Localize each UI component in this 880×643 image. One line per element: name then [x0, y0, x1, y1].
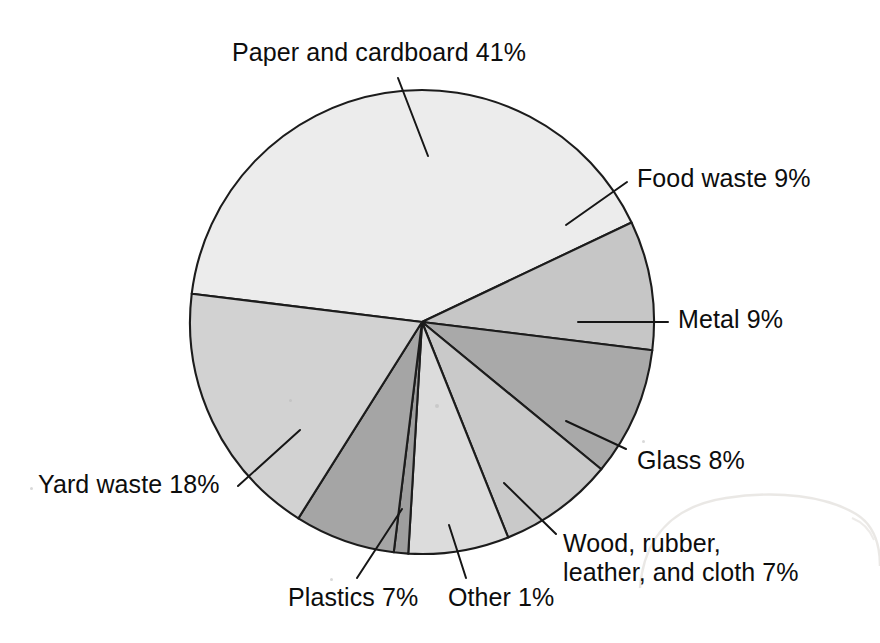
- label-paper-and-cardboard: Paper and cardboard 41%: [232, 38, 526, 67]
- label-wood-rubber-leather-cloth-line1: Wood, rubber,: [563, 529, 721, 558]
- pie-chart-figure: Paper and cardboard 41% Food waste 9% Me…: [0, 0, 880, 643]
- label-metal: Metal 9%: [678, 305, 783, 334]
- label-glass: Glass 8%: [637, 446, 745, 475]
- label-wood-rubber-leather-cloth-line2: leather, and cloth 7%: [563, 558, 799, 587]
- label-plastics: Plastics 7%: [288, 583, 418, 612]
- label-other: Other 1%: [448, 583, 554, 612]
- label-food-waste: Food waste 9%: [637, 164, 811, 193]
- label-yard-waste: Yard waste 18%: [38, 470, 220, 499]
